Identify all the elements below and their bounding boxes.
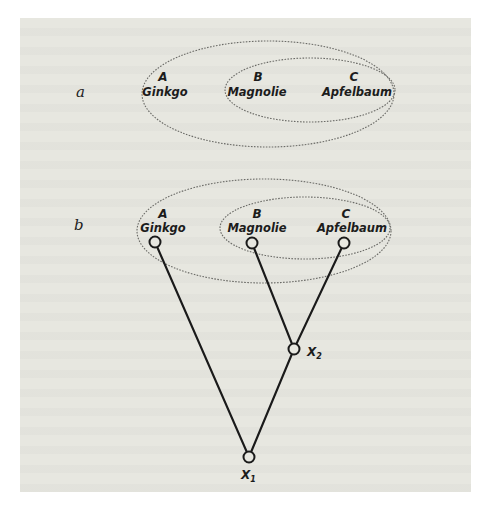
node-x2	[289, 344, 300, 355]
taxon-a-name: Ginkgo	[140, 221, 185, 235]
ancestor-x1-label: X1	[240, 468, 256, 484]
part-b-label: b	[74, 216, 84, 234]
taxon-a-letter: A	[157, 207, 167, 221]
node-a	[150, 237, 161, 248]
taxon-c-letter: C	[350, 70, 359, 84]
taxon-b-name: Magnolie	[227, 221, 286, 235]
taxon-a-letter: A	[157, 70, 167, 84]
taxon-c-letter: C	[342, 207, 351, 221]
node-x1	[244, 452, 255, 463]
cladogram-figure: a A Ginkgo B Magnolie C Apfelbaum b A Gi…	[0, 0, 488, 505]
taxon-b-letter: B	[253, 70, 262, 84]
edge-x2-x1	[249, 349, 294, 457]
edge-b-x2	[252, 243, 294, 349]
taxon-a-name: Ginkgo	[142, 85, 187, 99]
taxon-b-name: Magnolie	[227, 85, 286, 99]
taxon-b-letter: B	[252, 207, 261, 221]
taxon-c-name: Apfelbaum	[321, 85, 392, 99]
node-c	[339, 238, 350, 249]
part-b: b A Ginkgo B Magnolie C Apfelbaum X2 X1	[74, 179, 391, 484]
taxon-c-name: Apfelbaum	[316, 221, 387, 235]
node-b	[247, 238, 258, 249]
edge-a-x1	[155, 242, 249, 457]
ancestor-x2-label: X2	[306, 345, 322, 361]
part-a: a A Ginkgo B Magnolie C Apfelbaum	[76, 41, 395, 147]
part-a-label: a	[76, 83, 85, 101]
